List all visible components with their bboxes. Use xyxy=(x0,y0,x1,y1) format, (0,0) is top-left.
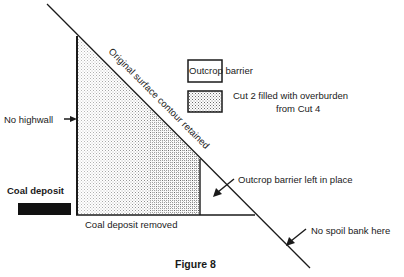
legend-label-outcrop-barrier: Outcrop barrier xyxy=(189,65,253,76)
legend-box-cut-2-fill xyxy=(188,91,222,112)
coal-deposit-block xyxy=(18,203,71,215)
no-spoil-bank-arrow-icon xyxy=(286,229,306,246)
coal-deposit-label: Coal deposit xyxy=(7,185,64,196)
legend-label-cut-2-line1: Cut 2 filled with overburden xyxy=(233,90,348,101)
coal-deposit-removed-label: Coal deposit removed xyxy=(85,219,177,230)
no-spoil-bank-label: No spoil bank here xyxy=(311,225,390,236)
no-highwall-label: No highwall xyxy=(4,114,53,125)
figure-caption: Figure 8 xyxy=(175,259,216,270)
outcrop-barrier-left-label: Outcrop barrier left in place xyxy=(238,174,353,185)
no-highwall-arrow-icon xyxy=(64,116,77,122)
legend-label-cut-2-line2: from Cut 4 xyxy=(276,103,320,114)
